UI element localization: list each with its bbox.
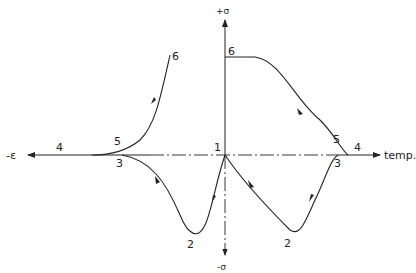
stress-strain-temperature-diagram: +σ -σ -ε temp. 1 2 2 3 3 4 4 5 5 6 6 bbox=[0, 0, 416, 273]
label-right-6: 6 bbox=[228, 45, 235, 58]
label-1: 1 bbox=[214, 141, 221, 154]
label-left-3: 3 bbox=[116, 157, 123, 170]
y-negative-label: -σ bbox=[217, 262, 226, 272]
label-left-2: 2 bbox=[187, 238, 194, 251]
label-right-3: 3 bbox=[334, 157, 341, 170]
label-right-2: 2 bbox=[284, 237, 291, 250]
label-right-5: 5 bbox=[333, 133, 340, 146]
label-left-4: 4 bbox=[56, 141, 63, 154]
y-positive-label: +σ bbox=[216, 6, 230, 16]
x-positive-label: temp. bbox=[384, 149, 416, 162]
label-left-6: 6 bbox=[172, 50, 179, 63]
left-cycle-curve bbox=[92, 55, 225, 234]
x-negative-label: -ε bbox=[6, 149, 16, 162]
right-cycle-curve bbox=[225, 57, 348, 232]
label-left-5: 5 bbox=[114, 135, 121, 148]
label-right-4: 4 bbox=[354, 141, 361, 154]
